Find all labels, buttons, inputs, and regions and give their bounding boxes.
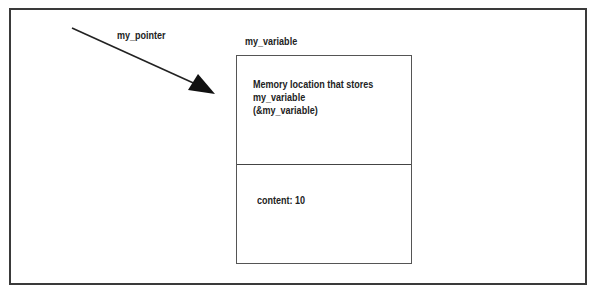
address-line: (&my_variable) bbox=[253, 104, 373, 117]
address-line: my_variable bbox=[253, 91, 373, 104]
content-cell: content: 10 bbox=[257, 194, 305, 207]
pointer-label: my_pointer bbox=[117, 29, 166, 41]
address-cell: Memory location that stores my_variable … bbox=[253, 78, 373, 117]
memory-box: Memory location that stores my_variable … bbox=[236, 55, 412, 264]
cell-divider bbox=[237, 164, 411, 165]
variable-label: my_variable bbox=[245, 35, 297, 47]
address-line: Memory location that stores bbox=[253, 78, 373, 91]
